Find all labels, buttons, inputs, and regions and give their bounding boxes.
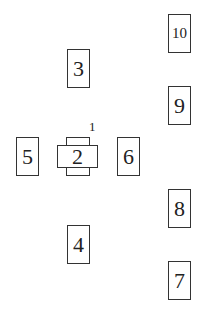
component-2: 2 (57, 145, 98, 168)
box-6-label: 6 (123, 146, 134, 168)
box-10-label: 10 (172, 26, 187, 41)
box-4: 4 (67, 225, 90, 264)
box-7-label: 7 (174, 270, 185, 292)
box-9-label: 9 (174, 95, 185, 117)
annotation-1: 1 (89, 119, 96, 135)
box-9: 9 (168, 86, 191, 125)
component-2-label: 2 (72, 144, 83, 170)
box-3-label: 3 (73, 58, 84, 80)
box-4-label: 4 (73, 234, 84, 256)
box-8: 8 (168, 189, 191, 228)
box-8-label: 8 (174, 198, 185, 220)
box-10: 10 (168, 14, 191, 53)
box-3: 3 (67, 49, 90, 88)
box-7: 7 (168, 261, 191, 300)
box-5-label: 5 (22, 146, 33, 168)
box-5: 5 (16, 137, 39, 176)
box-6: 6 (117, 137, 140, 176)
